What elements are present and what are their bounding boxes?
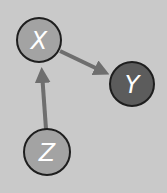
- edge-z-to-x: [42, 73, 46, 129]
- node-x: X: [17, 18, 61, 62]
- causal-diagram: X Y Z: [0, 0, 167, 193]
- node-x-label: X: [29, 27, 48, 55]
- node-y-label: Y: [125, 71, 142, 99]
- node-z-label: Z: [38, 139, 56, 167]
- node-z: Z: [24, 129, 70, 175]
- node-y: Y: [110, 62, 154, 106]
- edge-x-to-y: [60, 51, 104, 72]
